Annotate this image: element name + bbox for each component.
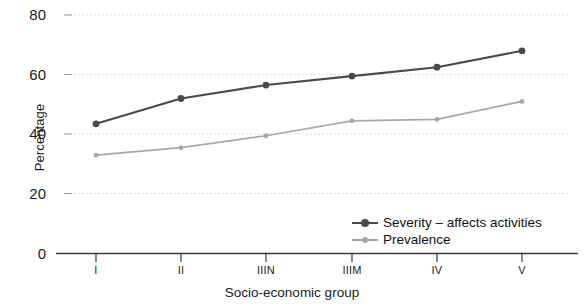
y-tick-label-40: 40: [4, 126, 46, 141]
legend-label-severity: Severity – affects activities: [383, 214, 542, 231]
series-line-severity: [96, 51, 522, 124]
series-line-prevalence: [96, 101, 522, 155]
data-point: [179, 145, 184, 150]
legend-marker-prevalence-icon: [352, 234, 378, 246]
gridlines: [70, 15, 570, 194]
data-series-group: [93, 47, 526, 157]
data-point: [264, 133, 269, 138]
data-point: [93, 120, 100, 127]
y-tick-label-60: 60: [4, 67, 46, 82]
x-axis-ticks: [96, 254, 522, 263]
x-axis-title: Socio-economic group: [0, 285, 584, 300]
x-tick-label-iiim: IIIM: [322, 265, 382, 276]
chart-legend: Severity – affects activities Prevalence: [352, 214, 542, 248]
data-point: [263, 82, 270, 89]
legend-marker-severity-icon: [352, 217, 378, 229]
legend-label-prevalence: Prevalence: [383, 231, 451, 248]
x-tick-label-iiin: IIIN: [236, 265, 296, 276]
data-point: [519, 47, 526, 54]
x-tick-label-v: V: [492, 265, 552, 276]
data-point: [94, 153, 99, 158]
y-tick-label-20: 20: [4, 186, 46, 201]
data-point: [520, 99, 525, 104]
data-point: [435, 117, 440, 122]
data-point: [178, 95, 185, 102]
plot-area: [0, 0, 584, 308]
x-tick-label-iv: IV: [407, 265, 467, 276]
x-tick-label-ii: II: [151, 265, 211, 276]
legend-item-prevalence: Prevalence: [352, 231, 542, 248]
y-tick-marks: [64, 15, 72, 194]
legend-item-severity: Severity – affects activities: [352, 214, 542, 231]
line-chart: Percentage 80 60 40 20 0 I II IIIN IIIM …: [0, 0, 584, 308]
y-tick-label-0: 0: [4, 246, 46, 261]
x-tick-label-i: I: [66, 265, 126, 276]
data-point: [434, 64, 441, 71]
data-point: [350, 118, 355, 123]
y-tick-label-80: 80: [4, 7, 46, 22]
data-point: [349, 73, 356, 80]
